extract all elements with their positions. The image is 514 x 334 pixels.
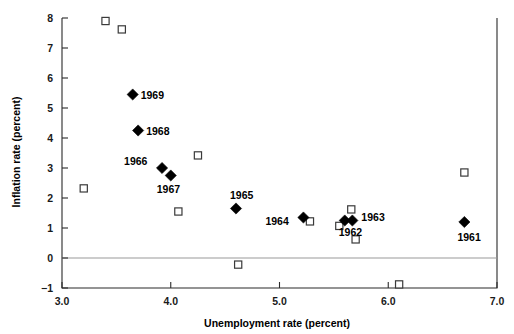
data-point-square	[461, 169, 468, 176]
data-point-label: 1964	[265, 215, 289, 227]
data-point-square	[235, 261, 242, 268]
y-tick-label: 3	[47, 162, 53, 174]
y-tick-label: −1	[41, 282, 53, 294]
data-point-square	[175, 208, 182, 215]
data-point-label: 1961	[457, 231, 481, 243]
data-point-label: 1966	[124, 155, 148, 167]
data-point-square	[118, 26, 125, 33]
x-tick-label: 7.0	[490, 295, 505, 307]
data-point-label: 1963	[361, 211, 385, 223]
data-point-square	[102, 17, 109, 24]
y-tick-label: 0	[47, 252, 53, 264]
data-point-label: 1968	[146, 125, 170, 137]
chart-background	[0, 0, 514, 334]
scatter-chart: 876543210−1 3.04.05.06.07.0 196919681966…	[0, 0, 514, 334]
data-point-label: 1965	[230, 189, 254, 201]
data-point-square	[80, 185, 87, 192]
data-point-square	[396, 281, 403, 288]
y-axis-title: Inflation rate (percent)	[10, 97, 22, 208]
y-tick-label: 6	[47, 72, 53, 84]
x-tick-label: 6.0	[381, 295, 396, 307]
x-tick-label: 3.0	[55, 295, 70, 307]
x-tick-label: 4.0	[163, 295, 178, 307]
y-tick-label: 2	[47, 192, 53, 204]
data-point-label: 1969	[141, 89, 165, 101]
data-point-label: 1962	[339, 226, 363, 238]
x-tick-label: 5.0	[272, 295, 287, 307]
y-tick-label: 1	[47, 222, 53, 234]
y-tick-label: 7	[47, 42, 53, 54]
y-tick-label: 5	[47, 102, 53, 114]
y-tick-label: 8	[47, 12, 53, 24]
data-point-label: 1967	[157, 183, 181, 195]
y-tick-label: 4	[47, 132, 53, 144]
data-point-square	[348, 206, 355, 213]
chart-canvas: 876543210−1 3.04.05.06.07.0 196919681966…	[0, 0, 514, 334]
x-axis-title: Unemployment rate (percent)	[204, 317, 350, 329]
data-point-square	[194, 152, 201, 159]
